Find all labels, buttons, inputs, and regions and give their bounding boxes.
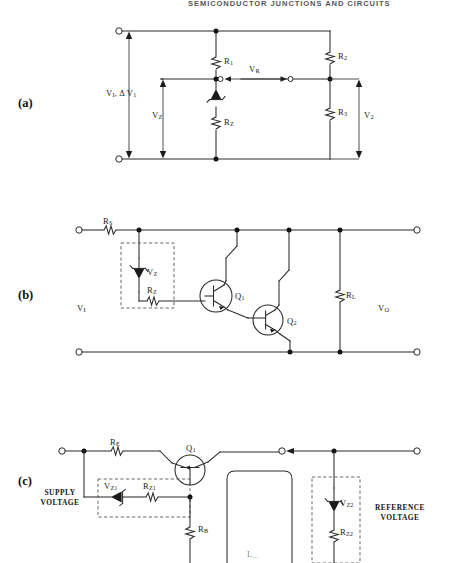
transistor-q1-b <box>200 230 248 318</box>
label-b-rs: RS <box>103 216 112 226</box>
caption-reference-voltage: REFERENCE VOLTAGE <box>364 503 436 522</box>
resistor-rz1 <box>146 493 158 501</box>
figure-a-schematic <box>0 0 450 563</box>
label-c-q1: Q1 <box>186 443 196 453</box>
label-b-vo: VO <box>378 303 389 313</box>
label-c-rz2: RZ2 <box>340 527 353 537</box>
label-b-rz: RZ <box>147 285 157 295</box>
resistor-re <box>111 447 123 455</box>
transistor-q1-c <box>172 452 279 485</box>
label-c-rb: RB <box>198 524 208 534</box>
node-c-base <box>188 495 193 500</box>
label-b-vz: VZ <box>147 267 157 277</box>
zener-diode-a <box>207 89 225 102</box>
terminal-b-in-top <box>76 227 82 233</box>
caption-supply-voltage: SUPPLY VOLTAGE <box>28 488 92 507</box>
resistor-rz-b <box>147 297 159 305</box>
resistor-r1 <box>212 57 220 69</box>
label-a-rz: RZ <box>224 117 234 127</box>
textbook-figure-page: SEMICONDUCTOR JUNCTIONS AND CIRCUITS <box>0 0 450 563</box>
load-outline-c <box>227 471 292 563</box>
current-arrow-c <box>286 448 294 454</box>
resistor-rz <box>212 117 220 129</box>
node-c-ref-top <box>332 449 337 454</box>
label-c-re: RE <box>110 437 120 447</box>
node-a-mid-right <box>328 77 333 82</box>
vr-measure-arrows <box>218 76 293 82</box>
terminal-b-in-bottom <box>76 349 82 355</box>
panel-letter-c: (c) <box>18 474 32 489</box>
resistor-r2 <box>326 52 334 64</box>
label-a-r2: R2 <box>338 51 347 61</box>
resistor-rl <box>336 290 344 302</box>
terminal-b-out-bottom <box>414 349 420 355</box>
label-a-r3: R3 <box>338 107 347 117</box>
label-b-q1: Q1 <box>235 291 245 301</box>
zener-diode-vz1 <box>111 489 125 505</box>
label-b-q2: Q2 <box>287 316 297 326</box>
zener-diode-b <box>130 258 148 279</box>
v2-measure-arrow <box>330 79 362 159</box>
node-b-q2-emitter <box>288 350 293 355</box>
node-a-bottom-left <box>214 157 219 162</box>
label-b-vi: VI <box>77 303 86 313</box>
panel-letter-b: (b) <box>18 288 33 303</box>
node-b-q2-collector <box>287 228 292 233</box>
node-a-top-left <box>214 29 219 34</box>
label-c-vz2: VZ2 <box>340 498 353 508</box>
terminal-b-out-top <box>414 227 420 233</box>
node-b-rl-bottom <box>338 350 343 355</box>
terminal-c-out-right <box>414 448 420 454</box>
terminal-c-in <box>59 448 65 454</box>
label-a-vz: VZ <box>152 110 162 120</box>
terminal-a-in-bottom <box>116 156 122 162</box>
node-b-rl-top <box>338 228 343 233</box>
label-a-vin: VI, Δ V1 <box>106 88 136 98</box>
running-head: SEMICONDUCTOR JUNCTIONS AND CIRCUITS <box>188 0 450 10</box>
node-c-supply-top <box>82 449 87 454</box>
transistor-q2-b <box>248 230 290 352</box>
label-b-rl: RL <box>346 290 356 300</box>
resistor-rb <box>186 527 194 539</box>
resistor-r3 <box>326 108 334 120</box>
reference-zener-box-c <box>312 477 360 563</box>
node-b-q1-collector <box>235 228 240 233</box>
node-b-zener-top <box>137 228 142 233</box>
terminal-c-out-mid <box>279 448 285 454</box>
label-c-vz1: VZ1 <box>104 481 117 491</box>
resistor-rs <box>104 226 116 234</box>
label-a-vr: VR <box>249 64 260 74</box>
label-a-v2: V2 <box>364 110 374 120</box>
label-c-rz1: RZ1 <box>143 481 156 491</box>
terminal-a-in-top <box>116 28 122 34</box>
resistor-rz2 <box>330 530 338 542</box>
label-a-r1: R1 <box>224 56 233 66</box>
panel-letter-a: (a) <box>18 96 33 111</box>
label-c-load-cut: L… <box>247 549 259 559</box>
node-a-mid-left <box>214 77 219 82</box>
